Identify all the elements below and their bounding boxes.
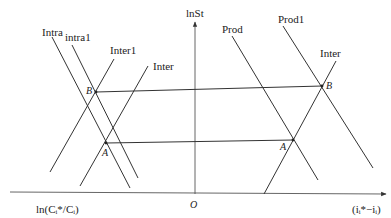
prod-label: Prod: [222, 24, 243, 35]
inter-left-label: Inter: [153, 61, 174, 72]
intra-curve: [52, 37, 130, 188]
inter-right-label: Inter: [320, 48, 341, 59]
intra1-curve: [72, 45, 138, 178]
inter-left-curve: [80, 66, 148, 186]
b-connector: [96, 86, 322, 92]
point-b-right-label: B: [326, 81, 332, 91]
diagram: lnSt ln(Cᵢ*/Cᵢ) (iᵢ*−iᵢ) O Intra intra1 …: [0, 0, 391, 218]
prod-curve: [232, 36, 318, 180]
x-axis: [10, 192, 386, 194]
a-connector: [106, 140, 293, 143]
prod1-label: Prod1: [278, 14, 304, 25]
x-right-label: (iᵢ*−iᵢ): [352, 204, 381, 215]
point-a-right: [292, 139, 295, 142]
point-b-left: [95, 91, 98, 94]
point-b-left-label: B: [86, 86, 92, 96]
point-b-right: [321, 85, 324, 88]
point-a-left: [105, 142, 108, 145]
intra-label: Intra: [42, 27, 63, 38]
inter1-label: Inter1: [110, 45, 136, 56]
x-left-label: ln(Cᵢ*/Cᵢ): [36, 204, 79, 215]
intra1-label: intra1: [65, 32, 91, 43]
origin-label: O: [190, 200, 197, 210]
y-axis-label: lnSt: [186, 8, 204, 19]
point-a-left-label: A: [102, 148, 108, 158]
point-a-right-label: A: [280, 142, 286, 152]
